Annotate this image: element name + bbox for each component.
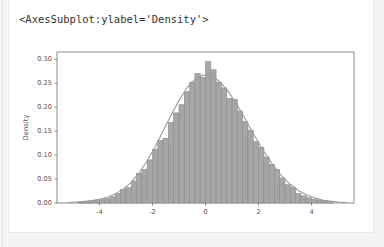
histogram-bar	[264, 157, 269, 203]
y-tick-label: 0.15	[37, 127, 52, 135]
x-tick-label: -2	[149, 208, 156, 216]
histogram-bar	[142, 169, 147, 203]
y-tick-label: 0.25	[37, 79, 52, 87]
histogram-bar	[147, 160, 152, 203]
histogram-bar	[110, 197, 115, 203]
screenshot-root: <AxesSubplot:ylabel='Density'> -4-20240.…	[0, 0, 384, 247]
y-tick-label: 0.00	[37, 199, 52, 207]
histogram-bar	[126, 188, 131, 203]
histogram-bars	[78, 62, 333, 203]
x-tick-label: 2	[256, 208, 260, 216]
histogram-bar	[322, 201, 327, 203]
histogram-bar	[259, 147, 264, 203]
histogram-bar	[179, 105, 184, 203]
y-tick-label: 0.10	[37, 151, 52, 159]
histogram-bar	[115, 193, 120, 203]
y-tick-label: 0.30	[37, 55, 52, 63]
y-axis-ticks: 0.000.050.100.150.200.250.30	[37, 55, 57, 207]
histogram-bar	[290, 188, 295, 203]
histogram-bar	[317, 200, 322, 203]
y-tick-label: 0.20	[37, 103, 52, 111]
left-gutter-rule	[2, 0, 3, 247]
histogram-bar	[232, 99, 237, 203]
histogram-bar	[269, 165, 274, 203]
histogram-bar	[301, 196, 306, 203]
matplotlib-figure: -4-20240.000.050.100.150.200.250.30Densi…	[19, 38, 365, 224]
y-tick-label: 0.05	[37, 175, 52, 183]
x-axis-ticks: -4-2024	[96, 203, 314, 216]
histogram-bar	[168, 122, 173, 203]
histogram-bar	[243, 122, 248, 203]
histogram-bar	[163, 138, 168, 203]
histogram-bar	[285, 185, 290, 203]
histogram-bar	[121, 190, 126, 203]
histogram-bar	[312, 199, 317, 203]
x-tick-label: 4	[309, 208, 313, 216]
histogram-bar	[280, 178, 285, 203]
histogram-bar	[237, 111, 242, 203]
histogram-bar	[131, 181, 136, 203]
histogram-bar	[99, 200, 104, 203]
histogram-bar	[200, 77, 205, 203]
histogram-bar	[152, 149, 157, 203]
histogram-plot: -4-20240.000.050.100.150.200.250.30Densi…	[19, 38, 365, 224]
histogram-bar	[221, 88, 226, 203]
histogram-bar	[306, 198, 311, 203]
x-tick-label: 0	[203, 208, 207, 216]
histogram-bar	[227, 99, 232, 204]
histogram-bar	[94, 201, 99, 203]
histogram-bar	[248, 130, 253, 203]
histogram-bar	[105, 199, 110, 203]
x-tick-label: -4	[96, 208, 103, 216]
histogram-bar	[216, 82, 221, 203]
y-axis-title: Density	[22, 115, 30, 141]
histogram-bar	[184, 92, 189, 203]
histogram-bar	[158, 141, 163, 203]
histogram-bar	[211, 70, 216, 203]
histogram-bar	[253, 142, 258, 203]
histogram-bar	[195, 74, 200, 203]
notebook-output-card: <AxesSubplot:ylabel='Density'> -4-20240.…	[8, 0, 374, 233]
histogram-bar	[137, 173, 142, 203]
histogram-bar	[296, 193, 301, 203]
histogram-bar	[174, 113, 179, 203]
histogram-bar	[206, 62, 211, 203]
axes-repr-text: <AxesSubplot:ylabel='Density'>	[19, 13, 209, 26]
histogram-bar	[274, 169, 279, 203]
histogram-bar	[190, 82, 195, 203]
